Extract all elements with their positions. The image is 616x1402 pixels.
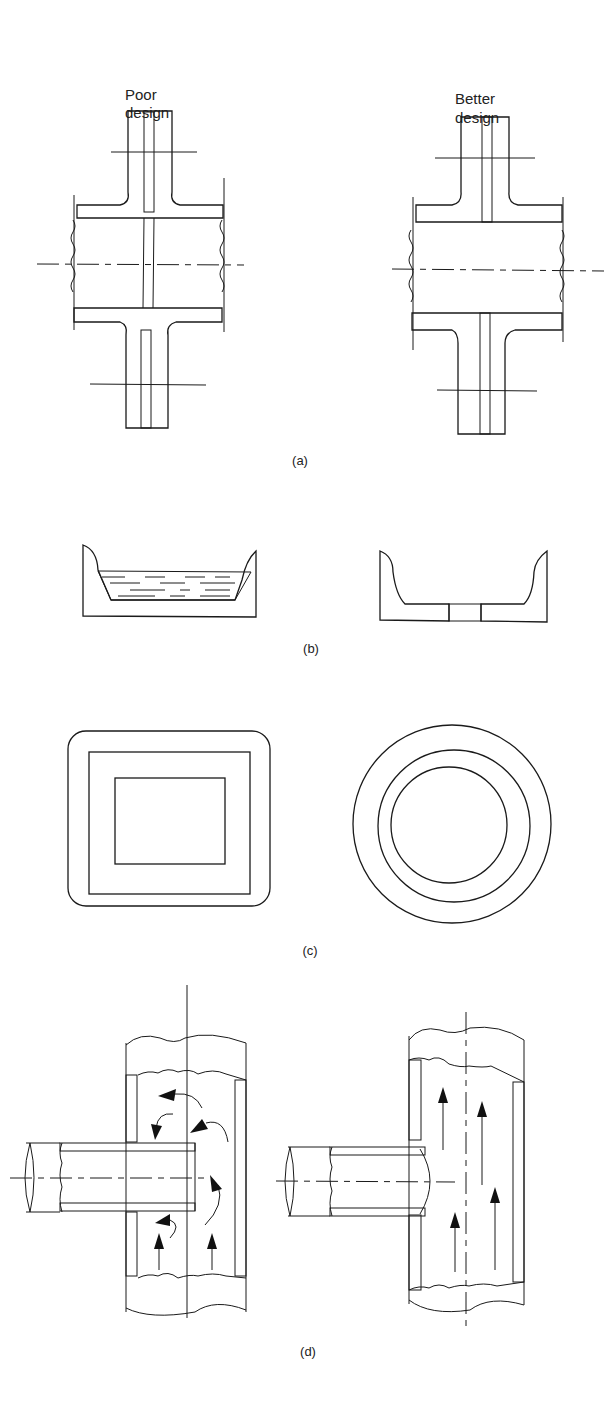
panel-b-better-tank bbox=[380, 551, 547, 622]
header-better-line1: Better bbox=[455, 90, 495, 107]
panel-d-better-tjoint bbox=[276, 1012, 524, 1330]
header-poor-design: Poor design bbox=[125, 86, 169, 121]
caption-c: (c) bbox=[302, 943, 317, 958]
panel-a-poor-flange bbox=[37, 111, 244, 428]
engineering-design-diagram: Poor design Better design bbox=[0, 0, 616, 1402]
caption-a: (a) bbox=[292, 453, 308, 468]
panel-c-square-section bbox=[68, 731, 270, 906]
panel-a-better-flange bbox=[392, 117, 604, 434]
header-poor-line1: Poor bbox=[125, 86, 157, 103]
panel-d-poor-tjoint bbox=[10, 985, 246, 1318]
panel-c-round-section bbox=[353, 725, 551, 923]
caption-b: (b) bbox=[303, 641, 319, 656]
caption-d: (d) bbox=[300, 1344, 316, 1359]
panel-b-poor-tank bbox=[83, 545, 256, 617]
